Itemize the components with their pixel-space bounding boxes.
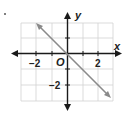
x-tick-label-2: 2 bbox=[95, 59, 101, 69]
x-axis-left-arrow-icon bbox=[11, 50, 18, 57]
y-tick-label-neg2: −2 bbox=[49, 81, 60, 91]
x-tick-label-neg2: −2 bbox=[29, 59, 40, 69]
y-axis-up-arrow-icon bbox=[64, 12, 71, 19]
x-axis-label: x bbox=[114, 41, 120, 52]
y-axis-down-arrow-icon bbox=[64, 104, 71, 111]
origin-label: O bbox=[56, 57, 65, 68]
y-axis-label: y bbox=[75, 10, 81, 21]
